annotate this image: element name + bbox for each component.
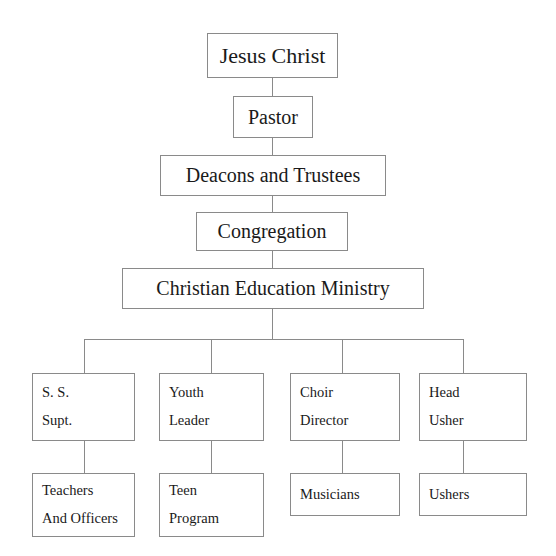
node-head-usher-label-line2: Usher	[429, 407, 526, 435]
node-deacons-and-trustees[interactable]: Deacons and Trustees	[160, 155, 386, 196]
node-head-usher[interactable]: Head Usher	[419, 373, 527, 441]
node-youth-leader[interactable]: Youth Leader	[159, 373, 264, 441]
node-ss-supt-label-line2: Supt.	[42, 407, 134, 435]
node-teen-program[interactable]: Teen Program	[159, 473, 264, 537]
node-teen-program-label-line2: Program	[169, 505, 263, 533]
node-ss-supt[interactable]: S. S. Supt.	[32, 373, 135, 441]
node-choir-director[interactable]: Choir Director	[290, 373, 400, 441]
connector-deacons-to-congregation	[272, 196, 273, 213]
node-teen-program-label-line1: Teen	[169, 477, 263, 505]
node-christian-education-ministry-label: Christian Education Ministry	[156, 278, 389, 299]
node-congregation-label: Congregation	[218, 221, 327, 242]
connector-congregation-to-ministry	[272, 251, 273, 268]
connector-bar-to-choir-director	[342, 339, 343, 373]
node-choir-director-label-line1: Choir	[300, 379, 399, 407]
node-pastor-label: Pastor	[248, 107, 298, 128]
node-jesus-christ-label: Jesus Christ	[220, 44, 326, 67]
node-congregation[interactable]: Congregation	[196, 212, 348, 251]
node-choir-director-label-line2: Director	[300, 407, 399, 435]
distribution-bar	[84, 339, 464, 340]
node-deacons-and-trustees-label: Deacons and Trustees	[186, 165, 360, 186]
node-teachers-and-officers-label-line2: And Officers	[42, 505, 134, 533]
node-ss-supt-label-line1: S. S.	[42, 379, 134, 407]
connector-bar-to-head-usher	[463, 339, 464, 373]
connector-ss-supt-to-teachers	[84, 441, 85, 473]
node-youth-leader-label-line2: Leader	[169, 407, 263, 435]
connector-jesus-to-pastor	[272, 78, 273, 96]
node-musicians[interactable]: Musicians	[290, 473, 400, 516]
node-ushers-label: Ushers	[429, 486, 526, 503]
org-chart: Jesus Christ Pastor Deacons and Trustees…	[0, 0, 556, 556]
connector-pastor-to-deacons	[272, 138, 273, 155]
node-teachers-and-officers[interactable]: Teachers And Officers	[32, 473, 135, 537]
connector-ministry-to-distribution-bar	[272, 309, 273, 340]
node-christian-education-ministry[interactable]: Christian Education Ministry	[122, 268, 424, 309]
node-youth-leader-label-line1: Youth	[169, 379, 263, 407]
node-musicians-label: Musicians	[300, 486, 399, 503]
connector-bar-to-youth-leader	[211, 339, 212, 373]
connector-choir-director-to-musicians	[342, 441, 343, 473]
connector-bar-to-ss-supt	[84, 339, 85, 373]
connector-youth-leader-to-teen-program	[211, 441, 212, 473]
node-pastor[interactable]: Pastor	[233, 96, 313, 138]
node-ushers[interactable]: Ushers	[419, 473, 527, 516]
node-teachers-and-officers-label-line1: Teachers	[42, 477, 134, 505]
node-head-usher-label-line1: Head	[429, 379, 526, 407]
connector-head-usher-to-ushers	[463, 441, 464, 473]
node-jesus-christ[interactable]: Jesus Christ	[207, 33, 338, 78]
